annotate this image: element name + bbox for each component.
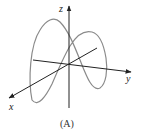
- figure-caption: (A): [60, 118, 74, 130]
- x-axis: [9, 48, 97, 98]
- x-axis-label: x: [8, 101, 14, 112]
- z-axis-label: z: [58, 3, 63, 14]
- y-axis-label: y: [125, 73, 131, 84]
- space-curve-diagram: z y x (A): [0, 0, 141, 140]
- y-axis: [33, 60, 131, 72]
